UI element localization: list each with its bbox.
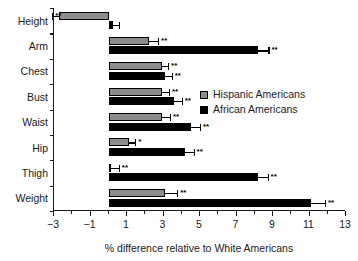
error-bar-cap xyxy=(177,190,178,197)
legend-label: African Americans xyxy=(213,104,298,115)
error-bar xyxy=(191,127,200,128)
x-axis-minor-tick xyxy=(108,211,109,214)
error-bar-cap xyxy=(135,139,136,146)
error-bar xyxy=(311,203,325,204)
bar-group-row: **** xyxy=(54,186,345,211)
y-axis-tick xyxy=(50,59,54,60)
x-axis-minor-tick xyxy=(290,211,291,214)
error-bar xyxy=(162,92,169,93)
bar-african-thigh xyxy=(109,173,259,181)
x-axis-tick xyxy=(345,211,346,216)
x-axis-minor-tick xyxy=(217,211,218,214)
significance-marker: * xyxy=(138,138,141,146)
bar-group-row: **** xyxy=(54,160,345,185)
error-bar-cap xyxy=(170,114,171,121)
y-axis-tick xyxy=(50,8,54,9)
x-axis-minor-tick xyxy=(144,211,145,214)
error-bar-cap xyxy=(268,47,269,54)
error-bar-cap xyxy=(119,165,120,172)
y-axis-tick xyxy=(50,110,54,111)
bar-hispanic-weight xyxy=(109,189,166,197)
x-axis-minor-tick xyxy=(254,211,255,214)
error-bar-cap xyxy=(169,89,170,96)
bar-hispanic-arm xyxy=(109,37,149,45)
error-bar xyxy=(149,41,158,42)
x-axis-tick-label: 1 xyxy=(123,219,129,230)
significance-marker: ** xyxy=(122,164,128,172)
legend-swatch-hispanic-icon xyxy=(200,91,208,99)
bar-african-waist xyxy=(109,123,191,131)
x-axis-tick-label: 13 xyxy=(339,219,351,230)
bar-african-arm xyxy=(109,46,259,54)
significance-marker: ** xyxy=(161,37,167,45)
y-axis-tick xyxy=(50,135,54,136)
bar-group-row: **** xyxy=(54,59,345,84)
x-axis-tick xyxy=(126,211,127,216)
significance-marker: ** xyxy=(197,148,203,156)
y-axis-label-weight: Weight xyxy=(0,193,48,204)
significance-marker: ** xyxy=(271,46,277,54)
significance-marker: ** xyxy=(171,62,177,70)
error-bar xyxy=(258,50,268,51)
legend-item-hispanic: Hispanic Americans xyxy=(200,88,305,101)
error-bar-cap xyxy=(52,13,53,20)
significance-marker: ** xyxy=(175,72,181,80)
error-bar-cap xyxy=(158,38,159,45)
error-bar-cap xyxy=(325,200,326,207)
bar-hispanic-hip xyxy=(109,138,129,146)
error-bar-cap xyxy=(119,22,120,29)
y-axis-label-thigh: Thigh xyxy=(0,168,48,179)
x-axis-tick xyxy=(272,211,273,216)
y-axis-label-hip: Hip xyxy=(0,143,48,154)
bar-hispanic-height xyxy=(59,12,109,20)
y-axis-label-bust: Bust xyxy=(0,92,48,103)
error-bar xyxy=(174,101,181,102)
significance-marker: ** xyxy=(328,199,334,207)
legend-label: Hispanic Americans xyxy=(213,89,305,100)
significance-marker: ** xyxy=(172,88,178,96)
x-axis-tick xyxy=(236,211,237,216)
y-axis-tick xyxy=(50,33,54,34)
error-bar-cap xyxy=(200,124,201,131)
x-axis-tick-label: 5 xyxy=(196,219,202,230)
y-axis-tick xyxy=(50,186,54,187)
error-bar xyxy=(165,193,177,194)
x-axis-tick xyxy=(53,211,54,216)
legend-swatch-african-icon xyxy=(200,106,208,114)
x-axis-tick xyxy=(163,211,164,216)
bar-african-weight xyxy=(109,199,312,207)
bar-hispanic-bust xyxy=(109,88,162,96)
x-axis-minor-tick xyxy=(71,211,72,214)
error-bar-cap xyxy=(182,98,183,105)
x-axis-tick-label: −3 xyxy=(47,219,59,230)
x-axis-tick xyxy=(199,211,200,216)
error-bar-cap xyxy=(172,73,173,80)
x-axis-tick-label: 9 xyxy=(269,219,275,230)
x-axis-title: % difference relative to White Americans xyxy=(53,243,345,254)
error-bar xyxy=(162,117,170,118)
error-bar xyxy=(185,152,193,153)
x-axis-minor-tick xyxy=(327,211,328,214)
error-bar-cap xyxy=(194,149,195,156)
error-bar xyxy=(111,168,119,169)
y-axis-tick xyxy=(50,160,54,161)
grouped-bar-chart: ***************************** HeightArmC… xyxy=(0,0,358,261)
legend: Hispanic AmericansAfrican Americans xyxy=(200,88,305,118)
error-bar-cap xyxy=(268,174,269,181)
bar-hispanic-waist xyxy=(109,113,162,121)
error-bar-cap xyxy=(168,63,169,70)
y-axis-label-chest: Chest xyxy=(0,66,48,77)
significance-marker: ** xyxy=(173,113,179,121)
y-axis-label-waist: Waist xyxy=(0,117,48,128)
significance-marker: ** xyxy=(185,97,191,105)
bar-african-bust xyxy=(109,97,175,105)
error-bar xyxy=(258,177,267,178)
x-axis-tick-label: 11 xyxy=(303,219,314,230)
bar-group-row: ** xyxy=(54,8,345,33)
significance-marker: ** xyxy=(203,123,209,131)
y-axis-label-arm: Arm xyxy=(0,41,48,52)
significance-marker: ** xyxy=(180,189,186,197)
x-axis-tick-label: 7 xyxy=(233,219,239,230)
x-axis-tick xyxy=(90,211,91,216)
x-axis-tick-label: 3 xyxy=(160,219,166,230)
